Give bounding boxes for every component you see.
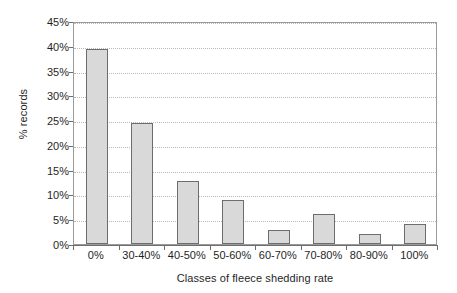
x-axis-tick-label: 40-50%: [164, 249, 210, 262]
y-axis-tick-label: 10%: [33, 190, 69, 201]
y-axis-tick-mark: [69, 47, 73, 48]
x-axis-tick-label: 70-80%: [301, 249, 347, 262]
x-axis-tick-label: 0%: [73, 249, 119, 262]
bar: [359, 234, 381, 244]
bar: [404, 224, 426, 244]
x-axis-tick-mark: [437, 246, 438, 250]
x-axis-tick-label: 50-60%: [210, 249, 256, 262]
y-axis-tick-label: 30%: [33, 91, 69, 102]
x-axis-tick-label: 80-90%: [346, 249, 392, 262]
x-axis-tick-mark: [210, 246, 211, 250]
x-axis-tick-mark: [73, 246, 74, 250]
x-axis-tick-label: 30-40%: [119, 249, 165, 262]
bars-layer: [74, 23, 436, 244]
y-axis-tick-label: 25%: [33, 116, 69, 127]
y-axis-tick-label: 20%: [33, 141, 69, 152]
plot-area: [73, 22, 437, 245]
y-axis-tick-mark: [69, 96, 73, 97]
x-axis-tick-mark: [301, 246, 302, 250]
bar: [222, 200, 244, 244]
x-axis-tick-labels: 0%30-40%40-50%50-60%60-70%70-80%80-90%10…: [73, 249, 437, 267]
x-axis-title: Classes of fleece shedding rate: [73, 272, 437, 284]
y-axis-tick-mark: [69, 220, 73, 221]
bar: [177, 181, 199, 244]
y-axis-tick-mark: [69, 22, 73, 23]
x-axis-tick-mark: [392, 246, 393, 250]
y-axis-tick-label: 35%: [33, 67, 69, 78]
y-axis-tick-label: 15%: [33, 166, 69, 177]
y-axis-tick-label: 0%: [33, 240, 69, 251]
y-axis-tick-label: 40%: [33, 42, 69, 53]
bar: [131, 123, 153, 244]
y-axis-tick-mark: [69, 146, 73, 147]
bar-chart-figure: % records 0%5%10%15%20%25%30%35%40%45% 0…: [0, 0, 457, 293]
y-axis-tick-labels: 0%5%10%15%20%25%30%35%40%45%: [27, 22, 69, 245]
y-axis-tick-label: 5%: [33, 215, 69, 226]
x-axis-tick-mark: [255, 246, 256, 250]
x-axis-tick-label: 60-70%: [255, 249, 301, 262]
bar: [268, 230, 290, 244]
y-axis-tick-label: 45%: [33, 17, 69, 28]
x-axis-tick-mark: [164, 246, 165, 250]
y-axis-tick-mark: [69, 72, 73, 73]
y-axis-tick-mark: [69, 121, 73, 122]
x-axis-tick-mark: [119, 246, 120, 250]
bar: [313, 214, 335, 244]
x-axis-tick-mark: [346, 246, 347, 250]
y-axis-tick-mark: [69, 195, 73, 196]
bar: [86, 49, 108, 244]
x-axis-tick-label: 100%: [392, 249, 438, 262]
y-axis-tick-mark: [69, 171, 73, 172]
